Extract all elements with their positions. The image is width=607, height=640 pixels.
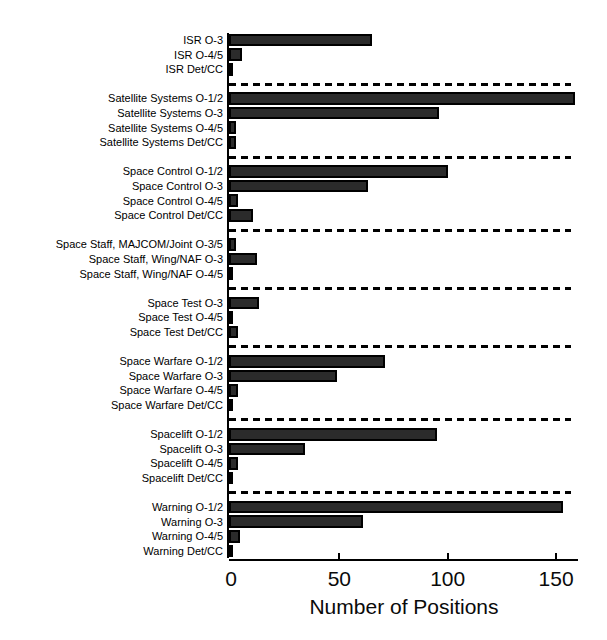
- bar-row: Space Staff, Wing/NAF O-4/5: [0, 267, 607, 282]
- category-label: Space Warfare O-1/2: [0, 354, 227, 369]
- bar-track: [227, 208, 575, 223]
- bar-row: Spacelift O-4/5: [0, 456, 607, 471]
- chart-plot-area: ISR O-3ISR O-4/5ISR Det/CCSatellite Syst…: [0, 33, 607, 558]
- bar-row: Warning O-4/5: [0, 529, 607, 544]
- category-label: Satellite Systems Det/CC: [0, 135, 227, 150]
- bar: [229, 238, 236, 251]
- separator-track: [227, 77, 575, 92]
- bar-row: ISR Det/CC: [0, 62, 607, 77]
- separator-track: [227, 339, 575, 354]
- separator-spacer: [0, 485, 227, 500]
- bar-track: [227, 529, 575, 544]
- category-label: Spacelift O-1/2: [0, 427, 227, 442]
- bar-track: [227, 515, 575, 530]
- bar-track: [227, 296, 575, 311]
- bar-track: [227, 500, 575, 515]
- x-axis-tick-label: 150: [539, 567, 574, 591]
- bar-row: Spacelift Det/CC: [0, 471, 607, 486]
- x-axis-title: Number of Positions: [231, 595, 577, 619]
- group-separator: [0, 485, 607, 500]
- category-label: ISR Det/CC: [0, 62, 227, 77]
- bar-track: [227, 48, 575, 63]
- separator-spacer: [0, 77, 227, 92]
- x-axis-tick-label: 0: [225, 567, 237, 591]
- bar: [229, 48, 242, 61]
- category-label: Warning O-4/5: [0, 529, 227, 544]
- x-axis-tick-label: 100: [430, 567, 465, 591]
- group-separator: [0, 77, 607, 92]
- bar-track: [227, 442, 575, 457]
- category-label: Spacelift O-3: [0, 442, 227, 457]
- bar-row: Satellite Systems Det/CC: [0, 135, 607, 150]
- bar-row: Space Control Det/CC: [0, 208, 607, 223]
- bar: [229, 267, 233, 280]
- category-label: Space Control O-4/5: [0, 194, 227, 209]
- separator-track: [227, 281, 575, 296]
- category-label: Satellite Systems O-3: [0, 106, 227, 121]
- category-label: Space Staff, MAJCOM/Joint O-3/5: [0, 237, 227, 252]
- x-axis-tick: [447, 553, 449, 559]
- bar-row: Space Warfare O-1/2: [0, 354, 607, 369]
- bar: [229, 428, 437, 441]
- bar-row: Space Control O-3: [0, 179, 607, 194]
- bar-track: [227, 456, 575, 471]
- separator-track: [227, 412, 575, 427]
- category-label: ISR O-3: [0, 33, 227, 48]
- bar-chart-figure: ISR O-3ISR O-4/5ISR Det/CCSatellite Syst…: [0, 0, 607, 640]
- bar: [229, 253, 257, 266]
- bar-row: ISR O-3: [0, 33, 607, 48]
- category-label: Space Warfare Det/CC: [0, 398, 227, 413]
- bar: [229, 472, 233, 485]
- bar-row: Satellite Systems O-1/2: [0, 91, 607, 106]
- bar-row: Space Test Det/CC: [0, 325, 607, 340]
- bar: [229, 355, 385, 368]
- group-separator: [0, 339, 607, 354]
- bar: [229, 370, 337, 383]
- bar-track: [227, 398, 575, 413]
- bar-row: Space Control O-1/2: [0, 164, 607, 179]
- group-separator: [0, 223, 607, 238]
- category-label: Spacelift O-4/5: [0, 456, 227, 471]
- group-separator: [0, 150, 607, 165]
- bar-row: Space Staff, MAJCOM/Joint O-3/5: [0, 237, 607, 252]
- bar-row: Satellite Systems O-3: [0, 106, 607, 121]
- bar-row: Spacelift O-3: [0, 442, 607, 457]
- separator-spacer: [0, 339, 227, 354]
- dashed-separator-line: [229, 345, 571, 348]
- bar-track: [227, 354, 575, 369]
- bar-row: Space Test O-3: [0, 296, 607, 311]
- bar-track: [227, 121, 575, 136]
- bar-track: [227, 62, 575, 77]
- category-label: Warning O-1/2: [0, 500, 227, 515]
- category-label: Space Test Det/CC: [0, 325, 227, 340]
- category-label: Satellite Systems O-1/2: [0, 91, 227, 106]
- separator-spacer: [0, 223, 227, 238]
- bar-track: [227, 33, 575, 48]
- bar-row: Space Warfare Det/CC: [0, 398, 607, 413]
- group-separator: [0, 281, 607, 296]
- separator-spacer: [0, 412, 227, 427]
- bar-track: [227, 164, 575, 179]
- bar: [229, 515, 363, 528]
- dashed-separator-line: [229, 156, 571, 159]
- category-label: Space Control O-3: [0, 179, 227, 194]
- bar-track: [227, 544, 575, 559]
- bar-row: Warning O-3: [0, 515, 607, 530]
- dashed-separator-line: [229, 229, 571, 232]
- bar-track: [227, 267, 575, 282]
- bar-track: [227, 194, 575, 209]
- bar-track: [227, 427, 575, 442]
- bar: [229, 136, 236, 149]
- bar-row: Warning O-1/2: [0, 500, 607, 515]
- dashed-separator-line: [229, 287, 571, 290]
- bar-track: [227, 91, 575, 106]
- category-label: Space Warfare O-3: [0, 369, 227, 384]
- bar: [229, 326, 238, 339]
- x-axis-tick: [338, 553, 340, 559]
- bar-track: [227, 135, 575, 150]
- separator-track: [227, 223, 575, 238]
- bar: [229, 443, 305, 456]
- dashed-separator-line: [229, 418, 571, 421]
- bar-row: Space Warfare O-4/5: [0, 383, 607, 398]
- bar: [229, 399, 233, 412]
